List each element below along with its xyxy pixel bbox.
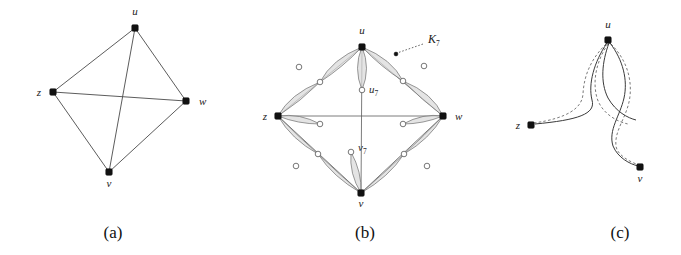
panel-b-lens-gadgets (278, 47, 443, 193)
vertex-label-z: z (36, 86, 42, 98)
open-node-u-z-outer (296, 64, 302, 70)
open-node-u7 (359, 87, 365, 93)
figure-canvas: u w v z (0, 0, 681, 255)
vertex-label-z: z (515, 119, 521, 131)
vertex-u (359, 44, 365, 50)
open-node-z-v-outer (293, 163, 299, 169)
open-node-u-z-mid (317, 79, 323, 85)
edge-u-w (135, 28, 186, 101)
vertex-label-w: w (455, 110, 463, 122)
vertex-u (132, 25, 138, 31)
k7-leader-line (397, 44, 423, 53)
open-node-u-w-outer (421, 63, 427, 69)
edge-u-z (53, 28, 135, 92)
mid-node-label-u7: u7 (369, 83, 379, 98)
panel-c-solid-curves (535, 43, 638, 166)
panel-c: u v z (515, 18, 643, 184)
open-node-v7 (348, 149, 354, 155)
vertex-z (275, 113, 281, 119)
vertex-z (50, 89, 56, 95)
gadget-label-k7-subscript: 7 (436, 39, 440, 48)
vertex-w (440, 113, 446, 119)
open-node-w-v-mid (401, 151, 407, 157)
dashed-curve-u-v (611, 44, 639, 165)
vertex-v (637, 164, 643, 170)
vertex-label-u: u (359, 24, 365, 36)
vertex-label-v: v (359, 197, 364, 209)
panel-c-vertices (528, 37, 643, 170)
lens-u-w-near-w (403, 81, 443, 116)
edge-w-z (53, 92, 186, 101)
k7-leader-anchor-dot (394, 52, 398, 56)
dashed-curve-u-inner (595, 44, 628, 124)
vertex-u (605, 37, 611, 43)
caption-b: (b) (355, 223, 375, 242)
vertex-label-w: w (199, 95, 207, 107)
gadget-label-k7: K7 (427, 32, 440, 48)
vertex-w (183, 98, 189, 104)
panel-b-mid-node-labels: u7 v7 (358, 83, 379, 156)
dashed-curve-u-z (534, 44, 606, 123)
lens-w-v-near-v (361, 154, 404, 193)
vertex-v (106, 169, 112, 175)
mid-node-label-v7: v7 (358, 141, 367, 156)
vertex-label-u: u (605, 18, 611, 30)
open-node-z-w-left (317, 121, 323, 127)
open-node-u-w-mid (400, 78, 406, 84)
panel-a: u w v z (36, 5, 207, 189)
lens-u-v-near-u (358, 47, 367, 90)
edge-v-z (53, 92, 109, 172)
edge-u-v (109, 28, 135, 172)
lens-u-z-near-u (320, 47, 362, 82)
vertex-v (358, 190, 364, 196)
open-node-z-v-mid (315, 151, 321, 157)
vertex-z (528, 122, 534, 128)
open-node-z-w-right (400, 121, 406, 127)
figure-captions: (a) (b) (c) (104, 223, 630, 242)
panel-b-gadget-annotation: K7 (394, 32, 440, 56)
figure-container: u w v z (0, 0, 681, 255)
mid-node-label-u7-subscript: 7 (375, 89, 379, 98)
lens-u-z-near-z (278, 82, 320, 116)
edge-w-v (109, 101, 186, 172)
panel-c-dashed-curves (534, 44, 639, 165)
vertex-label-v: v (107, 177, 112, 189)
solid-curve-u-loop (603, 43, 636, 120)
caption-c: (c) (611, 223, 630, 242)
panel-b: K7 u w v z u7 v7 (262, 24, 463, 209)
caption-a: (a) (104, 223, 123, 242)
panel-a-edges (53, 28, 186, 172)
vertex-label-z: z (262, 110, 268, 122)
vertex-label-v: v (638, 172, 643, 184)
open-node-w-v-outer (424, 163, 430, 169)
vertex-label-u: u (132, 5, 138, 17)
mid-node-label-v7-subscript: 7 (363, 147, 367, 156)
